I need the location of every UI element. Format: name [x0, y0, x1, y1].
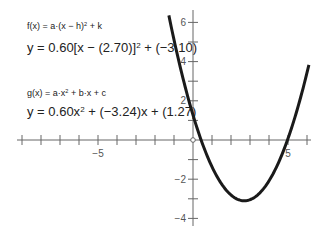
- axes: [17, 10, 311, 226]
- y-tick-label: 2: [180, 95, 186, 106]
- y-tick-label: −2: [175, 174, 187, 185]
- y-tick-label: −4: [175, 213, 187, 224]
- parabola-curve: [169, 15, 309, 200]
- x-tick-label: −5: [92, 148, 104, 159]
- origin-open-point: [191, 138, 196, 143]
- y-tick-label: 6: [180, 17, 186, 28]
- x-tick-label: 5: [285, 148, 291, 159]
- parabola-plot: 5−5246−4−2: [0, 0, 321, 234]
